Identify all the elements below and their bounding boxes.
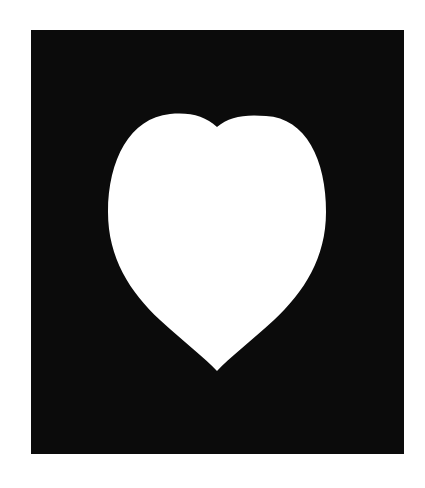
heart-shape: [108, 114, 326, 371]
heart-icon: [0, 0, 425, 488]
